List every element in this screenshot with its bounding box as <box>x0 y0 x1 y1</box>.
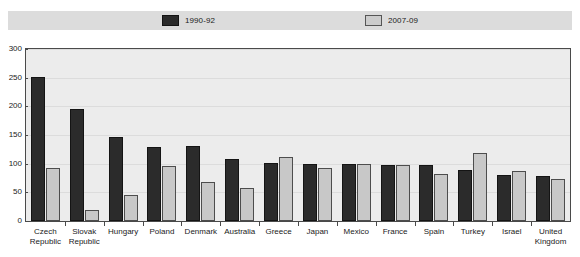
bar-group <box>259 49 298 221</box>
x-axis-tick-mark <box>337 222 338 226</box>
y-axis-tick-label: 200 <box>0 101 22 110</box>
x-axis-tick-mark <box>65 222 66 226</box>
bar-1990-92[interactable] <box>70 109 84 221</box>
x-axis-tick-mark <box>415 222 416 226</box>
bar-1990-92[interactable] <box>497 175 511 221</box>
x-axis-category-label: Australia <box>220 227 259 237</box>
x-axis-category-label-line: Greece <box>259 227 298 237</box>
x-axis-tick-mark <box>181 222 182 226</box>
y-axis-tick-label: 0 <box>0 216 22 225</box>
legend-item-2007-09[interactable]: 2007-09 <box>365 15 418 26</box>
bar-group <box>143 49 182 221</box>
x-axis-category-label-line: Turkey <box>453 227 492 237</box>
x-axis-category-label: Turkey <box>453 227 492 237</box>
bar-group <box>220 49 259 221</box>
legend-item-1990-92[interactable]: 1990-92 <box>162 15 215 26</box>
bar-2007-09[interactable] <box>162 166 176 221</box>
x-axis-category-label-line: Japan <box>298 227 337 237</box>
x-axis-category-label-line: Poland <box>143 227 182 237</box>
y-axis: 050100150200250300 <box>0 48 22 222</box>
light-square-swatch-icon <box>365 15 382 26</box>
dark-square-swatch-icon <box>162 15 179 26</box>
chart-legend: 1990-92 2007-09 <box>8 11 572 30</box>
x-axis-category-label-line: Hungary <box>104 227 143 237</box>
x-axis-category-label-line: Australia <box>220 227 259 237</box>
y-axis-tick-mark <box>25 78 28 79</box>
bar-group <box>453 49 492 221</box>
bar-1990-92[interactable] <box>458 170 472 221</box>
y-axis-tick-mark <box>25 164 28 165</box>
bar-1990-92[interactable] <box>419 165 433 221</box>
x-axis-labels: CzechRepublicSlovakRepublicHungaryPoland… <box>26 227 570 255</box>
bar-2007-09[interactable] <box>512 171 526 221</box>
y-axis-tick-label: 100 <box>0 159 22 168</box>
bar-2007-09[interactable] <box>201 182 215 221</box>
x-axis-ticks <box>26 222 570 226</box>
bar-group <box>65 49 104 221</box>
bar-1990-92[interactable] <box>31 77 45 221</box>
x-axis-category-label: Hungary <box>104 227 143 237</box>
bar-group <box>492 49 531 221</box>
bar-1990-92[interactable] <box>225 159 239 221</box>
bar-2007-09[interactable] <box>551 179 565 221</box>
x-axis-category-label: France <box>376 227 415 237</box>
x-axis-category-label-line: United <box>531 227 570 237</box>
x-axis-category-label: Spain <box>415 227 454 237</box>
bar-1990-92[interactable] <box>186 146 200 221</box>
y-axis-tick-label: 300 <box>0 44 22 53</box>
x-axis-category-label-line: Denmark <box>181 227 220 237</box>
x-axis-category-label: Israel <box>492 227 531 237</box>
bar-2007-09[interactable] <box>85 210 99 221</box>
x-axis-tick-mark <box>104 222 105 226</box>
x-axis-tick-mark <box>143 222 144 226</box>
bar-1990-92[interactable] <box>109 137 123 221</box>
x-axis-tick-mark <box>531 222 532 226</box>
bar-2007-09[interactable] <box>473 153 487 221</box>
y-axis-tick-mark <box>25 221 28 222</box>
x-axis-tick-mark <box>259 222 260 226</box>
x-axis-tick-mark <box>298 222 299 226</box>
bar-2007-09[interactable] <box>357 164 371 221</box>
y-axis-tick-mark <box>25 49 28 50</box>
bar-2007-09[interactable] <box>318 168 332 221</box>
x-axis-category-label: UnitedKingdom <box>531 227 570 246</box>
bar-2007-09[interactable] <box>240 188 254 221</box>
bar-2007-09[interactable] <box>396 165 410 221</box>
bar-group <box>415 49 454 221</box>
y-axis-tick-mark <box>25 135 28 136</box>
bar-1990-92[interactable] <box>303 164 317 221</box>
x-axis-category-label: Japan <box>298 227 337 237</box>
x-axis-category-label: Poland <box>143 227 182 237</box>
x-axis-category-label-line: Slovak <box>65 227 104 237</box>
bar-2007-09[interactable] <box>124 195 138 221</box>
bar-group <box>337 49 376 221</box>
bar-1990-92[interactable] <box>264 163 278 221</box>
x-axis-category-label: Mexico <box>337 227 376 237</box>
bar-1990-92[interactable] <box>381 165 395 221</box>
y-axis-tick-label: 150 <box>0 130 22 139</box>
bar-group <box>181 49 220 221</box>
bar-2007-09[interactable] <box>279 157 293 221</box>
y-axis-tick-mark <box>25 192 28 193</box>
bar-2007-09[interactable] <box>46 168 60 221</box>
x-axis-category-label-line: Kingdom <box>531 237 570 247</box>
chart-title-strip <box>0 0 580 8</box>
x-axis-tick-mark <box>220 222 221 226</box>
bar-1990-92[interactable] <box>147 147 161 221</box>
legend-label-2007-09: 2007-09 <box>388 16 418 25</box>
bar-group <box>376 49 415 221</box>
bar-group <box>298 49 337 221</box>
y-axis-tick-label: 50 <box>0 187 22 196</box>
bar-group <box>26 49 65 221</box>
x-axis-category-label: CzechRepublic <box>26 227 65 246</box>
bar-2007-09[interactable] <box>434 174 448 221</box>
bar-1990-92[interactable] <box>536 176 550 221</box>
x-axis-category-label: SlovakRepublic <box>65 227 104 246</box>
x-axis-category-label: Greece <box>259 227 298 237</box>
y-axis-tick-label: 250 <box>0 73 22 82</box>
bar-1990-92[interactable] <box>342 164 356 221</box>
x-axis-category-label-line: Republic <box>26 237 65 247</box>
y-axis-tick-mark <box>25 106 28 107</box>
x-axis-category-label: Denmark <box>181 227 220 237</box>
x-axis-tick-mark <box>376 222 377 226</box>
